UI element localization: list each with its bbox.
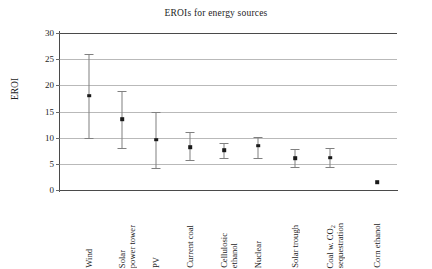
y-axis-label: EROI xyxy=(10,59,20,119)
error-bar-cap-lower xyxy=(152,168,161,169)
gridline xyxy=(60,138,397,139)
gridline xyxy=(60,33,397,34)
x-tick-label-line: Solar trough xyxy=(290,225,300,268)
y-tick-mark xyxy=(56,85,60,86)
data-point-marker[interactable] xyxy=(120,118,124,122)
error-bar-cap-lower xyxy=(85,138,94,139)
plot-area xyxy=(60,33,397,190)
y-tick-mark xyxy=(56,164,60,165)
data-point-marker[interactable] xyxy=(222,148,226,152)
data-point-marker[interactable] xyxy=(293,156,297,160)
y-tick-label: 5 xyxy=(30,159,54,169)
data-point-marker[interactable] xyxy=(256,144,260,148)
error-bar-cap-lower xyxy=(118,148,127,149)
y-tick-label: 20 xyxy=(30,80,54,90)
data-point-marker[interactable] xyxy=(375,180,379,184)
y-tick-mark xyxy=(56,112,60,113)
error-bar-cap-lower xyxy=(254,158,263,159)
data-point-marker[interactable] xyxy=(188,145,192,149)
error-bar-cap-upper xyxy=(186,132,195,133)
x-tick-label-line: sequestration xyxy=(335,223,345,268)
error-bar-cap-upper xyxy=(326,148,335,149)
x-tick-label-line: PV xyxy=(151,257,161,268)
y-tick-label: 10 xyxy=(30,133,54,143)
y-tick-mark xyxy=(56,33,60,34)
y-tick-mark xyxy=(56,138,60,139)
y-tick-label: 0 xyxy=(30,185,54,195)
x-tick-label-line: Wind xyxy=(84,249,94,268)
error-bar-cap-upper xyxy=(254,137,263,138)
error-bar-cap-upper xyxy=(220,143,229,144)
error-bar-cap-lower xyxy=(220,158,229,159)
chart-title: EROIs for energy sources xyxy=(0,8,432,18)
gridline xyxy=(60,59,397,60)
x-tick-label-line: Cellulosic xyxy=(219,233,229,268)
error-bar-cap-lower xyxy=(291,167,300,168)
data-point-marker[interactable] xyxy=(154,138,158,142)
y-tick-label: 30 xyxy=(30,28,54,38)
x-tick-label-line: ethanol xyxy=(229,243,239,268)
y-tick-label: 15 xyxy=(30,107,54,117)
error-bar-cap-upper xyxy=(85,54,94,55)
y-tick-mark xyxy=(56,190,60,191)
error-bar-cap-lower xyxy=(326,167,335,168)
gridline xyxy=(60,112,397,113)
y-tick-label: 25 xyxy=(30,54,54,64)
gridline xyxy=(60,164,397,165)
x-tick-label-line: Corn ethanol xyxy=(372,223,382,268)
y-tick-mark xyxy=(56,59,60,60)
x-tick-label-line: Nuclear xyxy=(253,241,263,268)
error-bar-cap-upper xyxy=(291,149,300,150)
data-point-marker[interactable] xyxy=(328,156,332,160)
x-tick-label-line: power tower xyxy=(127,225,137,268)
x-tick-label-line: Solar xyxy=(117,250,127,268)
chart-container: EROIs for energy sources EROI 0510152025… xyxy=(0,0,432,269)
error-bar-cap-upper xyxy=(118,91,127,92)
error-bar-cap-upper xyxy=(152,112,161,113)
x-tick-label-line: Current coal xyxy=(185,225,195,268)
gridline xyxy=(60,85,397,86)
data-point-marker[interactable] xyxy=(87,94,91,98)
error-bar-cap-lower xyxy=(186,160,195,161)
